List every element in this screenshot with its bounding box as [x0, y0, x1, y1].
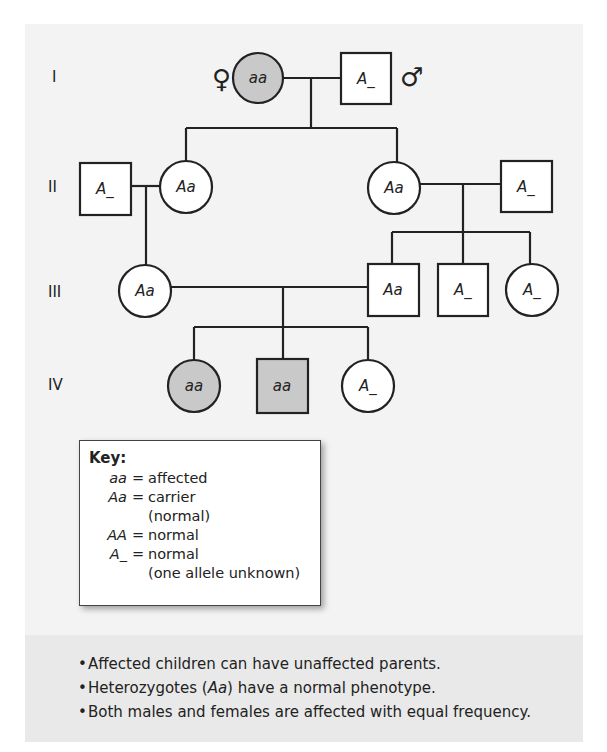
individual-III-2: Aa — [368, 264, 419, 316]
individual-II-4: A_ — [501, 161, 552, 212]
individual-III-1: Aa — [119, 265, 171, 317]
svg-text:Aa: Aa — [175, 178, 195, 196]
pedigree-chart: ♀ ♂ aa A_ A_ Aa Aa A_ Aa Aa A_ A_ — [0, 0, 607, 440]
key-title: Key: — [89, 449, 320, 467]
svg-text:A_: A_ — [516, 178, 535, 197]
note-item: •Heterozygotes (Aa) have a normal phenot… — [78, 676, 531, 700]
key-row-Aa: Aa = carrier(normal) — [89, 488, 320, 526]
pedigree-lines — [131, 78, 530, 360]
individual-II-1: A_ — [80, 163, 131, 215]
svg-text:Aa: Aa — [383, 179, 403, 197]
individual-IV-1: aa — [168, 360, 220, 412]
svg-text:A_: A_ — [356, 70, 375, 89]
individual-I-2: A_ — [341, 53, 391, 104]
individual-II-3: Aa — [368, 162, 420, 214]
note-item: •Affected children can have unaffected p… — [78, 652, 531, 676]
individual-IV-3: A_ — [342, 360, 394, 412]
svg-text:aa: aa — [249, 69, 267, 87]
svg-text:A_: A_ — [522, 281, 541, 300]
svg-text:Aa: Aa — [382, 281, 402, 299]
svg-text:aa: aa — [273, 377, 291, 395]
key-row-aa: aa = affected — [89, 469, 320, 488]
svg-text:aa: aa — [185, 377, 203, 395]
svg-text:A_: A_ — [453, 281, 472, 300]
svg-text:A_: A_ — [95, 180, 114, 199]
key-row-AA: AA = normal — [89, 526, 320, 545]
key-row-A_: A_ = normal(one allele unknown) — [89, 545, 320, 583]
legend-key-box: Key: aa = affected Aa = carrier(normal) … — [79, 440, 321, 606]
svg-text:A_: A_ — [358, 377, 377, 396]
individual-IV-2: aa — [257, 359, 308, 413]
notes-list: •Affected children can have unaffected p… — [78, 652, 531, 724]
individual-III-3: A_ — [438, 264, 488, 316]
female-symbol-icon: ♀ — [212, 64, 231, 94]
individual-I-1: aa — [233, 53, 283, 103]
note-item: •Both males and females are affected wit… — [78, 700, 531, 724]
individual-II-2: Aa — [160, 161, 212, 213]
male-symbol-icon: ♂ — [400, 62, 423, 92]
individual-III-4: A_ — [506, 264, 558, 316]
svg-text:Aa: Aa — [134, 282, 154, 300]
